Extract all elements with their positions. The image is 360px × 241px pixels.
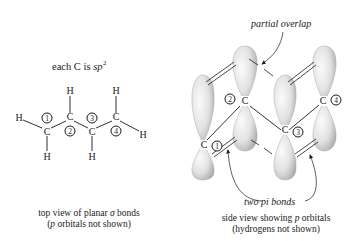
side-carbon-4: C	[319, 96, 327, 106]
diagram-graphics	[0, 0, 360, 241]
partial-top-seg2	[264, 69, 273, 76]
atom-c3: C	[89, 127, 96, 137]
caption-text: orbitals	[299, 213, 330, 223]
heading-hybrid: sp	[93, 61, 102, 72]
side-carbon-number-2: 2	[225, 94, 236, 105]
side-carbon-number-4: 4	[331, 95, 342, 106]
bond-c1-c2	[51, 121, 66, 128]
atom-h-right: H	[139, 130, 146, 140]
carbon-number-1: 1	[42, 113, 53, 124]
left-caption-line2: (p orbitals not shown)	[14, 219, 164, 230]
lobe-c2-upper	[233, 46, 257, 102]
pi-line-top-c1c2-a	[206, 62, 234, 82]
pi-line-top-c1c2-b	[208, 65, 236, 85]
bond-c3-c4	[96, 121, 112, 128]
side-carbon-2: C	[241, 96, 249, 106]
carbon-number-3: 3	[87, 113, 98, 124]
partial-overlap-label: partial overlap	[251, 19, 311, 29]
p-orbital-c1	[192, 75, 214, 180]
pi-bond-lines	[206, 62, 318, 157]
sigma-skeleton	[23, 96, 139, 151]
caption-text: side view showing	[222, 213, 295, 223]
atom-h-c3: H	[88, 152, 95, 162]
bond-c4-h-right	[120, 121, 139, 131]
pi-line-bottom-c3c4-a	[295, 139, 316, 154]
right-caption: side view showing p orbitals (hydrogens …	[196, 213, 356, 235]
atom-c1: C	[44, 127, 51, 137]
atom-c4: C	[113, 112, 120, 122]
atom-h-c4: H	[112, 86, 119, 96]
carbon-number-4: 4	[111, 126, 122, 137]
left-caption-line1: top view of planar σ bonds	[14, 208, 164, 219]
partial-overlap-arrow	[262, 32, 283, 64]
atom-h-c2: H	[66, 86, 73, 96]
right-caption-line1: side view showing p orbitals	[196, 213, 356, 224]
pi-line-top-c3c4-a	[288, 62, 314, 82]
partial-bottom-seg2	[264, 148, 272, 154]
caption-text: bonds	[115, 208, 140, 218]
heading-prefix: each C is	[52, 61, 93, 72]
atom-h-c1: H	[43, 152, 50, 162]
atom-c2: C	[67, 112, 74, 122]
side-carbon-3: C	[281, 125, 289, 135]
pi-bond-arrow-right	[305, 155, 316, 201]
lobe-c3-lower	[274, 132, 296, 180]
pi-line-bottom-c3c4-b	[297, 142, 318, 157]
atom-h-left: H	[15, 113, 22, 123]
side-carbon-number-3: 3	[293, 127, 304, 138]
caption-text: orbitals not shown)	[55, 219, 131, 229]
side-carbon-1: C	[200, 140, 208, 150]
pi-bond-arrow-left	[228, 150, 262, 201]
left-caption: top view of planar σ bonds (p orbitals n…	[14, 208, 164, 230]
bond-c2-c3	[74, 121, 88, 128]
carbon-number-2: 2	[65, 126, 76, 137]
lobe-c1-upper	[192, 75, 214, 143]
side-carbon-number-1: 1	[212, 141, 223, 152]
right-caption-line2: (hydrogens not shown)	[196, 224, 356, 235]
bond-h-c1	[23, 120, 42, 128]
two-pi-bonds-label: two pi bonds	[244, 197, 295, 207]
lobe-c4-upper	[313, 46, 336, 102]
heading-superscript: 2	[103, 59, 107, 67]
caption-text: top view of planar	[38, 208, 110, 218]
hybridization-heading: each C is sp2	[52, 60, 106, 73]
pi-line-top-c3c4-b	[290, 65, 316, 85]
